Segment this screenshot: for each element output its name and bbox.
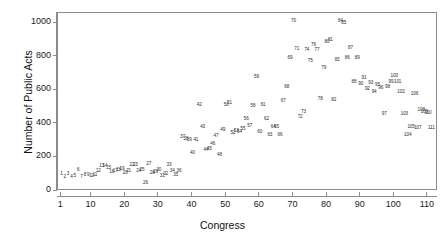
x-tick-label: 110 <box>420 199 434 209</box>
data-point: 39 <box>187 138 192 143</box>
data-point: 8 <box>84 173 86 178</box>
y-tick-label: 400 <box>36 117 51 127</box>
data-point: 35 <box>173 173 178 178</box>
data-point: 68 <box>284 84 289 89</box>
data-point: 93 <box>368 80 373 85</box>
data-point: 45 <box>207 147 212 152</box>
data-point: 55 <box>240 127 245 132</box>
x-tick-label: 80 <box>321 199 331 209</box>
data-point: 111 <box>428 126 435 131</box>
x-tick-label: 1 <box>58 199 63 209</box>
data-point: 41 <box>193 137 198 142</box>
data-point: 60 <box>257 130 262 135</box>
data-point: 71 <box>294 47 299 52</box>
data-point: 7 <box>80 175 82 180</box>
data-point: 101 <box>394 80 401 85</box>
data-point: 46 <box>210 142 215 147</box>
data-point: 5 <box>74 174 76 179</box>
x-tick-label: 20 <box>119 199 129 209</box>
chart-root: Number of Public Acts 02004006008001000 … <box>0 0 445 239</box>
x-tick-label: 30 <box>153 199 163 209</box>
x-tick-mark <box>426 192 427 196</box>
data-point: 36 <box>177 168 182 173</box>
x-tick-label: 70 <box>287 199 297 209</box>
x-tick-mark <box>359 192 360 196</box>
data-point: 6 <box>77 167 79 172</box>
x-tick-mark <box>326 192 327 196</box>
x-axis-title: Congress <box>0 219 445 231</box>
data-point: 23 <box>133 163 138 168</box>
x-tick-label: 10 <box>86 199 96 209</box>
data-point: 70 <box>291 19 296 24</box>
plot-area: 1234567891011121314151617181920212223242… <box>57 12 437 190</box>
x-tick-mark <box>225 192 226 196</box>
data-point: 102 <box>397 90 404 95</box>
data-point: 97 <box>382 112 387 117</box>
data-point: 57 <box>247 123 252 128</box>
data-point: 69 <box>288 56 293 61</box>
data-point: 106 <box>411 91 418 96</box>
data-point: 87 <box>348 45 353 50</box>
data-point: 79 <box>321 65 326 70</box>
data-point: 75 <box>308 58 313 63</box>
data-point: 25 <box>140 167 145 172</box>
data-point: 56 <box>244 117 249 122</box>
data-point: 98 <box>385 84 390 89</box>
x-tick-label: 50 <box>220 199 230 209</box>
data-point: 51 <box>227 101 232 106</box>
data-point: 83 <box>335 58 340 63</box>
scatter-points-layer: 1234567891011121314151617181920212223242… <box>58 13 436 189</box>
data-point: 89 <box>355 56 360 61</box>
data-point: 48 <box>217 152 222 157</box>
data-point: 81 <box>328 37 333 42</box>
y-tick-label: 200 <box>36 150 51 160</box>
x-tick-mark <box>60 192 61 196</box>
data-point: 74 <box>304 48 309 53</box>
x-tick-mark <box>393 192 394 196</box>
data-point: 90 <box>358 81 363 86</box>
data-point: 26 <box>143 181 148 186</box>
x-tick-label: 100 <box>386 199 401 209</box>
data-point: 40 <box>190 150 195 155</box>
data-point: 85 <box>341 21 346 26</box>
data-point: 42 <box>197 102 202 107</box>
data-point: 67 <box>281 99 286 104</box>
x-tick-mark <box>258 192 259 196</box>
data-point: 30 <box>156 168 161 173</box>
data-point: 61 <box>261 103 266 108</box>
data-point: 104 <box>404 132 411 137</box>
y-tick-label: 1000 <box>31 16 51 26</box>
data-point: 92 <box>365 87 370 92</box>
data-point: 99 <box>388 80 393 85</box>
x-tick-mark <box>292 192 293 196</box>
data-point: 21 <box>126 169 131 174</box>
data-point: 91 <box>362 76 367 81</box>
x-tick-mark <box>90 192 91 196</box>
x-tick-mark <box>124 192 125 196</box>
y-tick-label: 800 <box>36 50 51 60</box>
x-tick-label: 90 <box>355 199 365 209</box>
data-point: 27 <box>146 162 151 167</box>
x-tick-label: 60 <box>254 199 264 209</box>
data-point: 47 <box>214 134 219 139</box>
data-point: 110 <box>424 111 431 116</box>
data-point: 59 <box>254 75 259 80</box>
data-point: 2 <box>63 175 65 180</box>
data-point: 4 <box>70 174 72 179</box>
data-point: 77 <box>314 48 319 53</box>
y-tick-label: 600 <box>36 83 51 93</box>
data-point: 62 <box>264 116 269 121</box>
data-point: 3 <box>67 172 69 177</box>
data-point: 49 <box>220 128 225 133</box>
data-point: 73 <box>301 110 306 115</box>
data-point: 96 <box>378 86 383 91</box>
x-tick-mark <box>191 192 192 196</box>
data-point: 12 <box>96 169 101 174</box>
data-point: 86 <box>345 56 350 61</box>
data-point: 107 <box>414 126 421 131</box>
x-tick-mark <box>157 192 158 196</box>
y-tick-label: 0 <box>46 184 51 194</box>
data-point: 88 <box>351 80 356 85</box>
data-point: 32 <box>163 171 168 176</box>
data-point: 43 <box>200 124 205 129</box>
